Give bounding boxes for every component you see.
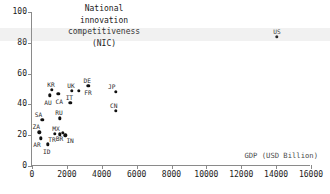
data-point-label: TR (48, 137, 55, 143)
y-axis-tick (28, 43, 32, 44)
plot-area: 020406080100 020004000600080001000012000… (31, 12, 310, 166)
x-axis-tick-label: 6000 (127, 171, 146, 179)
data-point-label: CN (110, 103, 117, 109)
data-point (50, 88, 53, 91)
x-axis-tick (276, 165, 277, 169)
data-point-label: US (273, 29, 280, 35)
x-axis-tick-label: 0 (30, 171, 35, 179)
data-point-label: JP (108, 84, 115, 90)
data-point (46, 143, 49, 146)
data-point (41, 118, 44, 121)
data-point (69, 101, 72, 104)
data-point-label: FR (84, 90, 91, 96)
x-axis-tick-label: 2000 (57, 171, 76, 179)
data-point-label: RU (55, 110, 62, 116)
data-point (275, 35, 278, 38)
data-point-label: CA (55, 99, 62, 105)
y-axis-tick (28, 12, 32, 13)
data-point-label: SA (35, 112, 42, 118)
data-point-label: AR (33, 142, 40, 148)
y-axis-tick-label: 40 (17, 100, 27, 108)
x-axis-tick-label: 14000 (264, 171, 288, 179)
y-axis-tick (28, 74, 32, 75)
data-point-label: UK (67, 83, 74, 89)
y-axis-tick-label: 100 (13, 8, 27, 16)
x-axis-title: GDP (USD Billion) (244, 152, 318, 160)
y-axis-tick-label: 60 (17, 70, 27, 78)
data-point (114, 90, 117, 93)
data-point-label: ID (43, 149, 50, 155)
x-axis-tick (241, 165, 242, 169)
y-axis-tick-label: 80 (17, 39, 27, 47)
data-point-label: ZA (33, 124, 40, 130)
data-point-label: IN (66, 138, 73, 144)
data-point (38, 130, 41, 133)
x-axis-tick (206, 165, 207, 169)
y-axis-tick (28, 104, 32, 105)
data-point-label: IT (66, 95, 73, 101)
x-axis-tick-label: 8000 (162, 171, 181, 179)
data-point (86, 84, 89, 87)
x-axis-tick-label: 4000 (92, 171, 111, 179)
x-axis-tick (172, 165, 173, 169)
data-point (114, 109, 117, 112)
data-point-label: AU (44, 100, 51, 106)
data-point-label: KR (47, 82, 54, 88)
x-axis-tick (311, 165, 312, 169)
y-axis-tick-label: 20 (17, 131, 27, 139)
data-point-label: DE (83, 78, 90, 84)
y-axis-tick-label: 0 (22, 162, 27, 170)
x-axis-tick (67, 165, 68, 169)
scatter-chart: National innovation competitiveness (NIC… (0, 0, 330, 194)
data-point-label: BR (56, 136, 63, 142)
x-axis-tick (137, 165, 138, 169)
data-point (56, 92, 59, 95)
x-axis-tick-label: 12000 (229, 171, 253, 179)
x-axis-tick-label: 16000 (299, 171, 323, 179)
data-point (39, 137, 42, 140)
y-axis-tick (28, 135, 32, 136)
data-point (77, 89, 80, 92)
data-point (48, 93, 51, 96)
data-point (58, 117, 61, 120)
x-axis-tick (32, 165, 33, 169)
x-axis-tick-label: 10000 (194, 171, 218, 179)
data-point (70, 89, 73, 92)
x-axis-tick (102, 165, 103, 169)
